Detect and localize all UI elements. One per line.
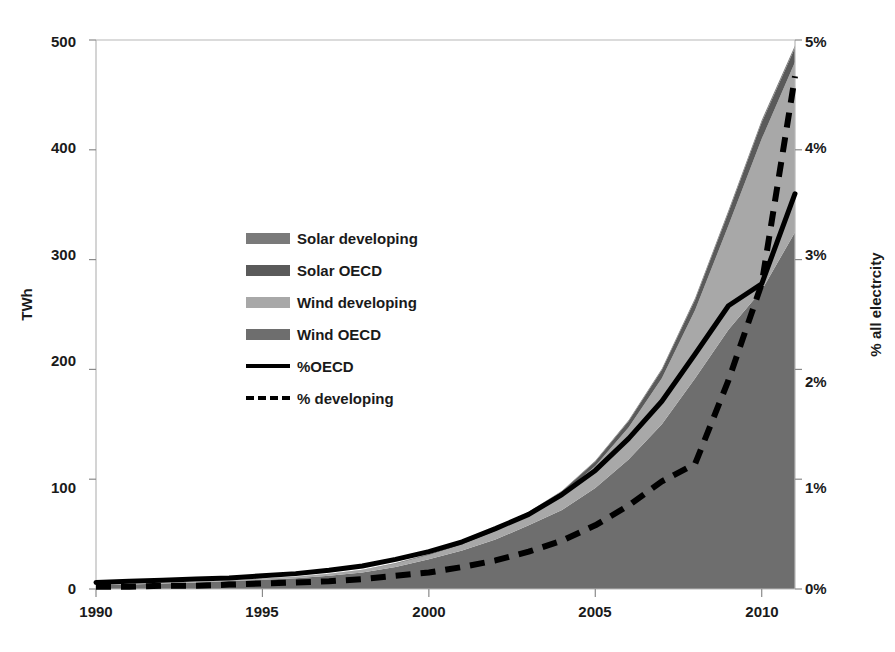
legend-label-wind-oecd: Wind OECD [297, 327, 381, 342]
legend-item-solar-developing: Solar developing [246, 222, 476, 254]
legend-swatch-wind-developing [246, 297, 290, 308]
chart-container: TWh % all electrcity 500 400 300 200 100… [0, 0, 895, 652]
legend-label-pct-developing: % developing [297, 391, 394, 406]
legend-line-pct-developing [246, 396, 290, 400]
legend-swatch-solar-oecd [246, 265, 290, 276]
legend-line-pct-oecd [246, 364, 290, 368]
legend-label-pct-oecd: %OECD [297, 359, 354, 374]
legend-item-pct-developing: % developing [246, 382, 476, 414]
chart-legend: Solar developing Solar OECD Wind develop… [246, 222, 476, 414]
legend-label-wind-developing: Wind developing [297, 295, 417, 310]
legend-swatch-wind-oecd [246, 329, 290, 340]
legend-item-solar-oecd: Solar OECD [246, 254, 476, 286]
legend-item-pct-oecd: %OECD [246, 350, 476, 382]
legend-label-solar-oecd: Solar OECD [297, 263, 382, 278]
legend-item-wind-oecd: Wind OECD [246, 318, 476, 350]
legend-item-wind-developing: Wind developing [246, 286, 476, 318]
legend-swatch-solar-developing [246, 233, 290, 244]
legend-label-solar-developing: Solar developing [297, 231, 418, 246]
